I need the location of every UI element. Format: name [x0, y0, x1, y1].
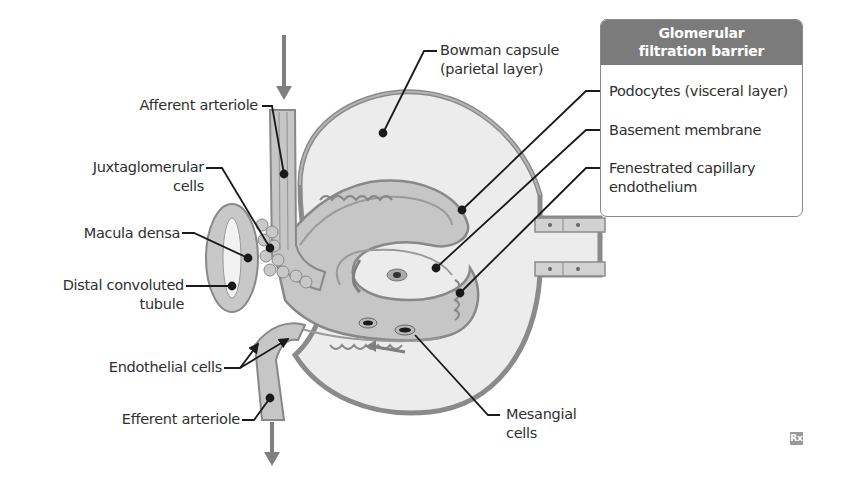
label-endothelial-cells: Endothelial cells: [109, 358, 222, 377]
label-mesangial-cells: Mesangial cells: [506, 405, 577, 443]
label-bowman-capsule: Bowman capsule (parietal layer): [440, 41, 559, 79]
legend-title-line: filtration barrier: [605, 42, 798, 60]
label-macula-densa: Macula densa: [84, 224, 180, 243]
legend-title: Glomerular filtration barrier: [601, 20, 802, 65]
label-efferent-arteriole: Efferent arteriole: [122, 410, 240, 429]
label-line: Juxtaglomerular: [93, 158, 204, 177]
label-line: (parietal layer): [440, 60, 559, 79]
label-line: Mesangial: [506, 405, 577, 424]
legend-item-line: endothelium: [609, 178, 755, 197]
label-juxtaglomerular-cells: Juxtaglomerular cells: [93, 158, 204, 196]
label-afferent-arteriole: Afferent arteriole: [140, 96, 258, 115]
legend-title-line: Glomerular: [605, 24, 798, 42]
blood-flow-out-arrow-icon: [264, 452, 280, 466]
filtration-barrier-legend: Glomerular filtration barrier Podocytes …: [600, 19, 803, 217]
label-line: Distal convoluted: [63, 276, 184, 295]
rx-logo-icon: Rx: [790, 432, 803, 445]
blood-flow-in-arrow-icon: [276, 86, 292, 100]
legend-item-basement-membrane: Basement membrane: [609, 121, 761, 140]
label-line: tubule: [63, 295, 184, 314]
label-distal-convoluted-tubule: Distal convoluted tubule: [63, 276, 184, 314]
legend-item-fenestrated-endothelium: Fenestrated capillary endothelium: [609, 159, 755, 197]
label-line: cells: [93, 177, 204, 196]
label-line: Bowman capsule: [440, 41, 559, 60]
legend-item-line: Fenestrated capillary: [609, 159, 755, 178]
legend-item-podocytes: Podocytes (visceral layer): [609, 82, 788, 101]
label-line: cells: [506, 424, 577, 443]
